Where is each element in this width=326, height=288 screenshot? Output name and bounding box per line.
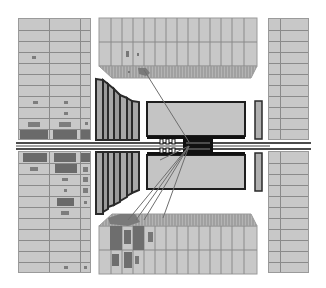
top-muon-endcap [99,18,257,78]
right-endcap-top [255,101,262,139]
bottom-muon-endcap [99,214,257,274]
left-forward-calorimeter-top [96,79,139,140]
particle-tracks [128,70,189,220]
right-endcap-bottom [255,153,262,191]
detector-geometry [0,0,326,288]
central-calorimeter-top [147,102,245,136]
left-forward-calorimeter-bottom [96,152,139,214]
detector-diagram [0,0,326,288]
